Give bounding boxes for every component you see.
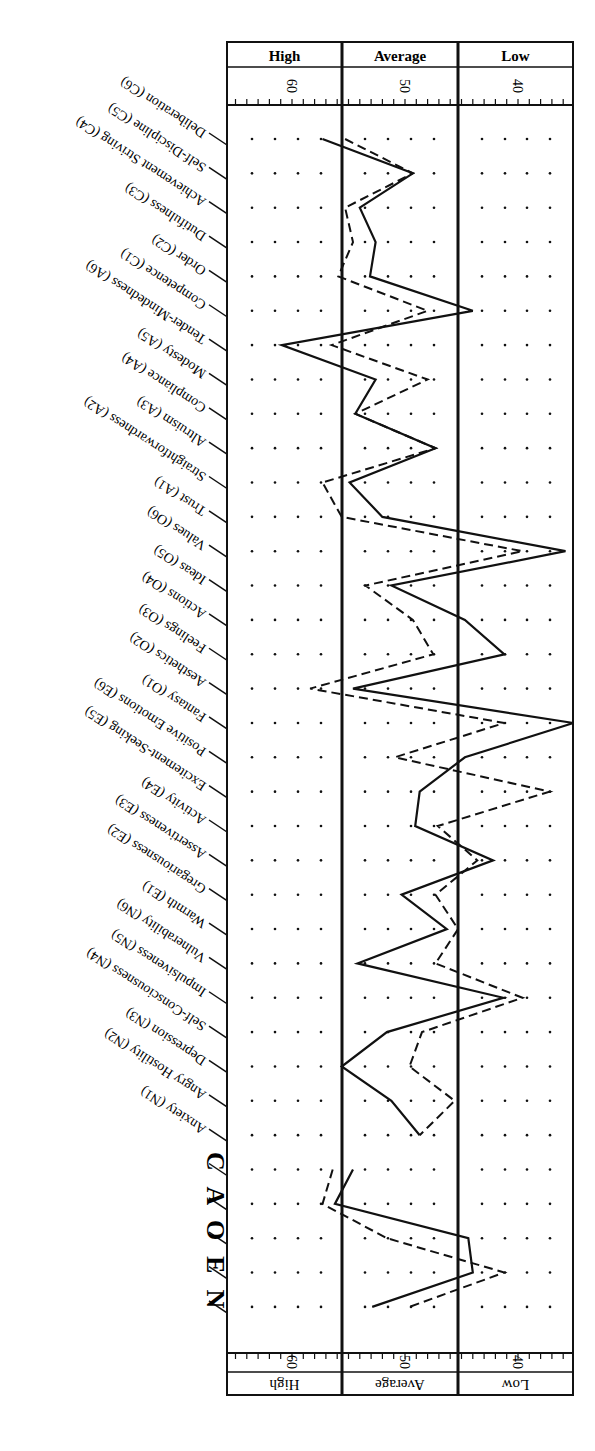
label-leader [209,270,227,282]
label-leader [209,717,227,729]
facet-label: C [201,1152,230,1171]
label-leader [209,854,227,866]
facet-label: E [201,1256,230,1273]
label-leader [209,408,227,420]
tick-label-bottom-60: 60 [284,1355,299,1369]
band-label-high: High [269,48,301,64]
label-leader [209,786,227,798]
facet-labels: Deliberation (C6)Self-Discipline (C5)Ach… [72,73,230,1353]
chart-frame [227,42,573,1395]
tick-label-60: 60 [284,79,299,93]
label-leader [209,1026,227,1038]
band-label-average: Average [374,48,427,64]
label-leader [209,992,227,1004]
label-leader [209,683,227,695]
label-leader [209,133,227,145]
label-leader [209,1095,227,1107]
dashed-profile-line-domains [323,1170,505,1307]
label-leader [209,1129,227,1141]
facet-label: A [201,1186,230,1205]
top-score-header: HighAverageLow605040 [236,48,564,105]
label-leader [209,580,227,592]
dotted-grid [251,138,552,1309]
tick-label-bottom-50: 50 [397,1355,412,1369]
band-label-bottom-low: Low [502,1377,530,1393]
label-leader [209,236,227,248]
bottom-score-header: HighAverageLow605040 [236,1353,564,1393]
label-leader [209,820,227,832]
label-leader [209,442,227,454]
label-leader [209,167,227,179]
neo-profile-chart: HighAverageLow605040 HighAverageLow60504… [0,0,595,1451]
facet-label: N [201,1290,230,1309]
label-leader [209,373,227,385]
solid-profile-line-facets [282,139,574,1135]
tick-label-bottom-40: 40 [510,1355,525,1369]
solid-profile-line-domains [335,1170,473,1307]
label-leader [209,202,227,214]
label-leader [209,889,227,901]
label-leader [209,614,227,626]
label-leader [209,957,227,969]
profile-lines [282,139,574,1307]
label-leader [209,751,227,763]
label-leader [209,923,227,935]
tick-label-40: 40 [510,79,525,93]
label-leader [209,305,227,317]
label-leader [209,339,227,351]
label-leader [209,545,227,557]
label-leader [209,648,227,660]
label-leader [209,1060,227,1072]
band-label-low: Low [501,48,530,64]
label-leader [209,477,227,489]
facet-label: O [201,1220,230,1240]
dashed-profile-line-facets [310,139,549,1135]
tick-label-50: 50 [397,79,412,93]
label-leader [209,511,227,523]
band-label-bottom-average: Average [375,1377,425,1393]
facet-label: Compliance (A4) [118,349,209,416]
outer-border [227,42,573,1395]
band-label-bottom-high: High [269,1377,300,1393]
